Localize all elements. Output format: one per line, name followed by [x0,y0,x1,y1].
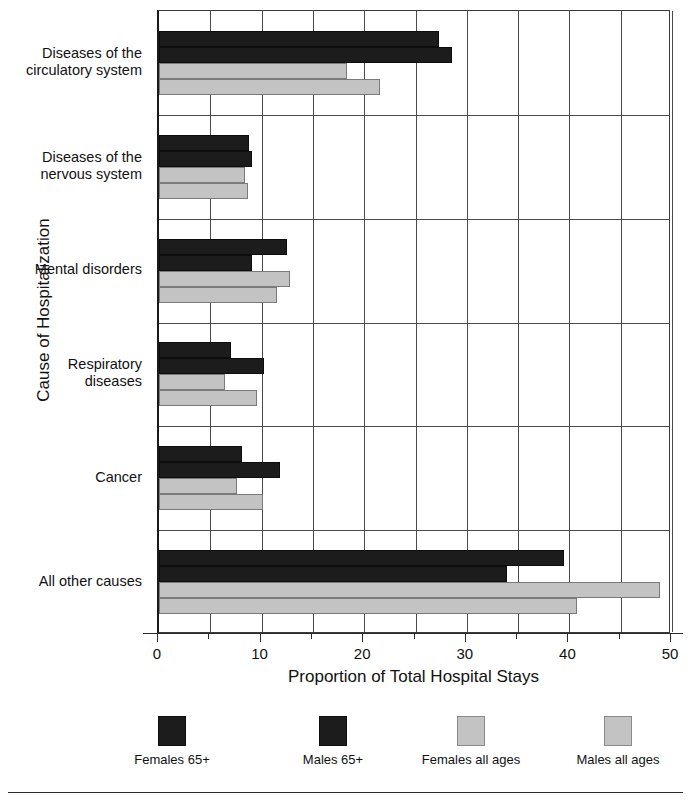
category-separator [159,323,669,324]
legend-item: Females all ages [401,716,541,767]
category-label-line: All other causes [0,573,142,590]
x-axis-tick-minor [208,633,209,639]
bar-group [159,239,672,303]
y-axis-category-labels: Diseases of thecirculatory systemDisease… [0,10,150,633]
bar [159,135,249,151]
bar [159,151,252,167]
legend-label: Males all ages [548,752,688,767]
bar [159,183,248,199]
category-label: All other causes [0,573,142,590]
x-axis-tick-label: 10 [251,645,268,662]
bar [159,255,252,271]
bar [159,167,245,183]
bar [159,582,660,598]
x-axis-tick-label: 50 [662,645,679,662]
x-axis-tick-label: 0 [153,645,161,662]
gridline [569,11,570,632]
x-axis-tick-major [567,633,568,642]
bottom-divider [8,792,683,793]
gridline [621,11,622,632]
category-label: Diseases of thenervous system [0,149,142,183]
x-axis-tick-minor [619,633,620,639]
x-axis-tick-major [670,633,671,642]
category-label-line: circulatory system [0,62,142,79]
bar [159,31,439,47]
x-axis-tick-minor [311,633,312,639]
bar [159,287,277,303]
x-axis-tick-label: 30 [456,645,473,662]
bar-group [159,135,672,199]
gridline [364,11,365,632]
category-label: Mental disorders [0,261,142,278]
bar [159,239,287,255]
bar-group [159,342,672,406]
x-axis-tick-label: 40 [559,645,576,662]
bar-group [159,446,672,510]
legend-label: Females 65+ [102,752,242,767]
gridline [467,11,468,632]
category-separator [159,530,669,531]
x-axis-tick-major [465,633,466,642]
x-axis-tick-major [260,633,261,642]
bar [159,494,263,510]
category-label-line: nervous system [0,166,142,183]
chart-legend: Females 65+Males 65+Females all agesMale… [0,716,691,776]
bar [159,566,507,582]
x-axis-tick-major [362,633,363,642]
legend-swatch [604,716,632,746]
category-separator [159,115,669,116]
category-separator [159,426,669,427]
legend-label: Females all ages [401,752,541,767]
legend-item: Males 65+ [263,716,403,767]
bar-group [159,550,672,614]
category-label-line: diseases [0,373,142,390]
gridline [210,11,211,632]
legend-swatch [158,716,186,746]
gridline [518,11,519,632]
x-axis-tick-major [157,633,158,642]
x-axis-title: Proportion of Total Hospital Stays [157,667,670,687]
x-axis-tick-label: 20 [354,645,371,662]
bar [159,47,452,63]
gridline [672,11,673,632]
gridline [416,11,417,632]
category-label-line: Mental disorders [0,261,142,278]
bar [159,342,231,358]
gridline [313,11,314,632]
gridline [262,11,263,632]
legend-swatch [319,716,347,746]
bar-chart-figure: Cause of Hospitalization Diseases of the… [0,0,691,801]
category-label-line: Diseases of the [0,149,142,166]
x-axis-tick-minor [516,633,517,639]
x-axis-tick-minor [414,633,415,639]
bar [159,462,280,478]
bar [159,358,264,374]
category-separator [159,219,669,220]
bar [159,598,577,614]
category-label-line: Cancer [0,469,142,486]
category-label: Cancer [0,469,142,486]
bar [159,79,380,95]
plot-area [157,10,670,633]
legend-label: Males 65+ [263,752,403,767]
bar [159,374,225,390]
bar-group [159,31,672,95]
bar [159,550,564,566]
bar [159,446,242,462]
category-label-line: Diseases of the [0,45,142,62]
bar [159,63,347,79]
bar [159,390,257,406]
category-label: Respiratorydiseases [0,356,142,390]
category-label: Diseases of thecirculatory system [0,45,142,79]
bar [159,271,290,287]
bar [159,478,237,494]
legend-item: Females 65+ [102,716,242,767]
legend-item: Males all ages [548,716,688,767]
category-label-line: Respiratory [0,356,142,373]
legend-swatch [457,716,485,746]
